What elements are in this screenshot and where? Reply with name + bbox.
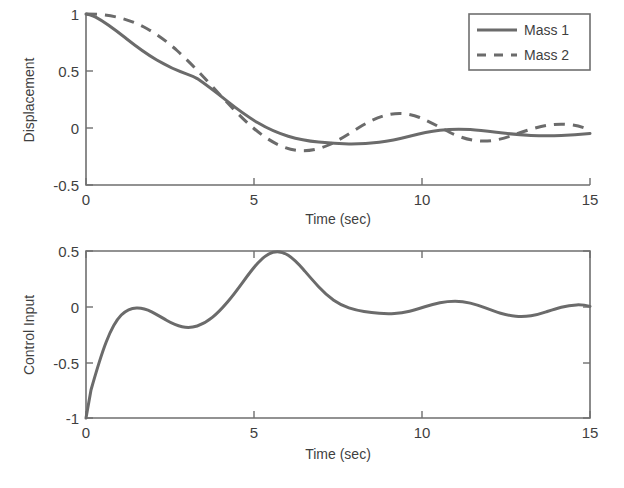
top-ylabel: Displacement — [21, 57, 37, 142]
bottom-xtick-5: 5 — [250, 424, 258, 441]
bottom-ytick-neg1: -1 — [66, 410, 79, 427]
top-x-ticks — [86, 178, 590, 185]
figure-container: 1 0.5 0 -0.5 0 5 10 15 Time (sec) Displa… — [0, 0, 624, 488]
plots-svg: 1 0.5 0 -0.5 0 5 10 15 Time (sec) Displa… — [0, 0, 624, 488]
bottom-xlabel: Time (sec) — [305, 446, 371, 462]
bottom-xtick-15: 15 — [582, 424, 599, 441]
top-y-ticks — [86, 14, 93, 185]
top-panel: 1 0.5 0 -0.5 0 5 10 15 Time (sec) Displa… — [21, 6, 598, 227]
bottom-x-ticks — [86, 251, 590, 418]
bottom-xtick-0: 0 — [82, 424, 90, 441]
top-xtick-15: 15 — [582, 191, 599, 208]
top-xtick-0: 0 — [82, 191, 90, 208]
top-ytick-neg0p5: -0.5 — [53, 177, 79, 194]
bottom-xtick-10: 10 — [414, 424, 431, 441]
bottom-axis-frame — [86, 251, 590, 418]
legend-label-mass-2: Mass 2 — [524, 47, 569, 63]
bottom-ylabel: Control Input — [21, 295, 37, 375]
bottom-y-ticks — [86, 251, 590, 418]
top-xtick-5: 5 — [250, 191, 258, 208]
bottom-ytick-0: 0 — [71, 299, 79, 316]
top-ytick-0p5: 0.5 — [58, 63, 79, 80]
legend[interactable]: Mass 1 Mass 2 — [469, 14, 590, 70]
legend-label-mass-1: Mass 1 — [524, 22, 569, 38]
bottom-ytick-neg0p5: -0.5 — [53, 355, 79, 372]
top-xtick-10: 10 — [414, 191, 431, 208]
series-control-input-line — [86, 252, 590, 418]
bottom-panel: 0.5 0 -0.5 -1 0 5 10 15 Time (sec) Contr… — [21, 243, 598, 462]
top-ytick-0: 0 — [71, 120, 79, 137]
bottom-ytick-0p5: 0.5 — [58, 243, 79, 260]
top-ytick-1: 1 — [71, 6, 79, 23]
top-xlabel: Time (sec) — [305, 211, 371, 227]
